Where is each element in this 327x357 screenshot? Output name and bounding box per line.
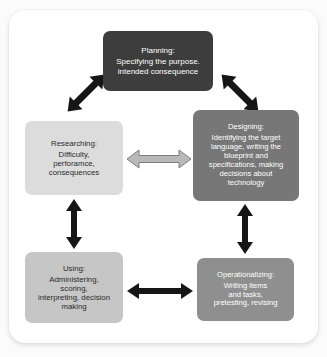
node-using-line-3: interpreting, decision [38,293,110,302]
node-researching-line-3: consequences [49,168,99,177]
node-researching[interactable]: Researching: Difficulty, perforamce, con… [25,121,123,195]
connector-researching-designing [126,148,192,170]
node-using-line-2: scoring, [60,284,87,293]
connector-using-operationalizing [126,280,194,302]
node-planning-line-1: Specifying the purpose. [116,57,200,66]
node-operationalizing-title: Operationalizing: [217,271,274,280]
node-using-line-1: Administering, [49,275,98,284]
node-using[interactable]: Using: Administering, scoring, interpret… [25,252,123,323]
node-researching-title: Researching: [51,139,97,148]
node-planning-title: Planning: [141,46,174,55]
node-designing-line-6: technology [228,179,265,188]
node-operationalizing-line-3: pretesting, revising [214,299,278,308]
node-designing[interactable]: Designing: Identifying the target langua… [193,110,299,201]
node-planning-line-2: intended consequence [118,67,199,76]
node-using-line-4: making [61,302,86,311]
node-designing-title: Designing: [228,123,264,132]
node-researching-line-2: perforamce, [53,159,95,168]
diagram-canvas: Planning: Specifying the purpose. intend… [0,0,327,357]
connector-researching-using [63,198,85,250]
node-operationalizing[interactable]: Operationalizing: Writing items and task… [197,258,294,321]
connector-designing-operationalizing [234,203,256,255]
node-using-title: Using: [63,264,85,273]
diagram-stage: Planning: Specifying the purpose. intend… [0,0,327,357]
node-researching-line-1: Difficulty, [59,150,90,159]
node-planning[interactable]: Planning: Specifying the purpose. intend… [103,31,213,91]
